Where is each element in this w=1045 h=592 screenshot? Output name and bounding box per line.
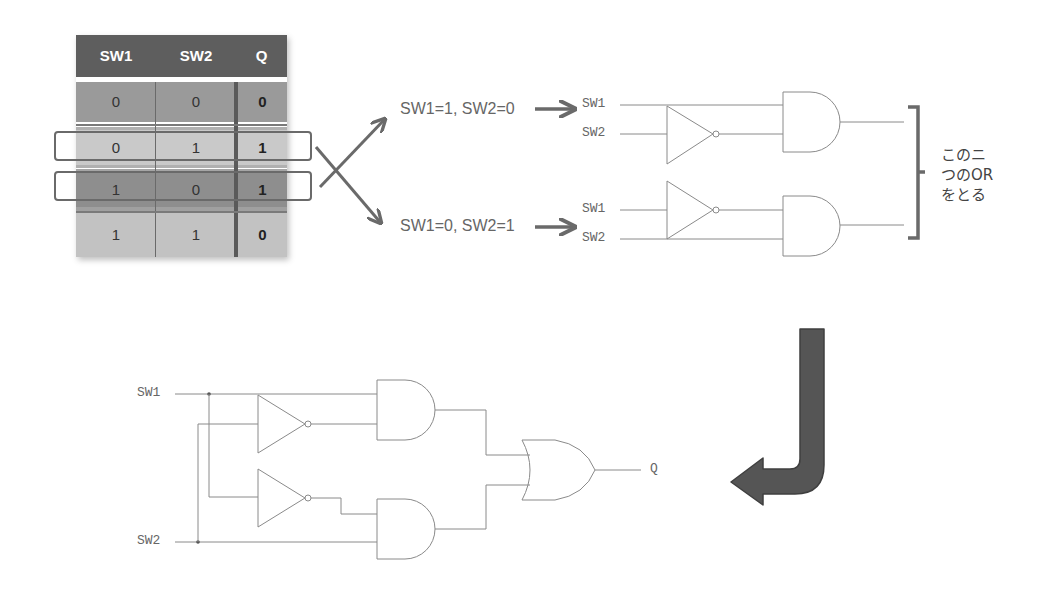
combined-output-q: Q [650, 461, 658, 476]
big-curved-arrow-icon [731, 329, 824, 505]
not-gate-icon [258, 395, 305, 453]
combined-circuit [175, 380, 641, 559]
input-label-sw1: SW1 [582, 96, 605, 111]
input-label-sw2: SW2 [582, 125, 605, 140]
condition-upper-label: SW1=1, SW2=0 [400, 100, 515, 118]
condition-lower-label: SW1=0, SW2=1 [400, 217, 515, 235]
note-line-2: つのOR [941, 165, 993, 185]
and-gate-icon [783, 92, 840, 152]
and-gate-icon [783, 196, 840, 256]
not-gate-icon [667, 181, 713, 239]
and-circuit-upper [620, 92, 904, 164]
input-label-sw1: SW1 [582, 201, 605, 216]
cross-arrows [316, 120, 384, 222]
combined-input-sw1: SW1 [137, 385, 160, 400]
or-gate-icon [522, 440, 595, 500]
not-gate-icon [667, 106, 713, 164]
not-gate-icon [258, 469, 305, 527]
diagram-canvas [0, 0, 1045, 592]
input-label-sw2: SW2 [582, 230, 605, 245]
and-gate-icon [377, 499, 435, 559]
note-line-1: このニ [941, 145, 993, 165]
and-gate-icon [377, 380, 435, 440]
condition-arrows [535, 109, 573, 227]
combined-input-sw2: SW2 [137, 533, 160, 548]
note-line-3: をとる [941, 185, 993, 205]
bracket-icon [908, 107, 925, 238]
and-circuit-lower [620, 181, 904, 256]
or-note: このニ つのOR をとる [941, 145, 993, 205]
